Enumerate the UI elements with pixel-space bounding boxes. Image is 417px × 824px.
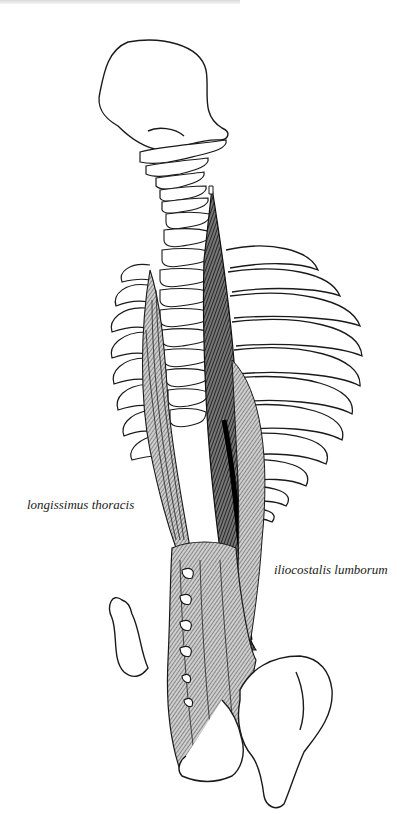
label-longissimus-thoracis: longissimus thoracis	[27, 497, 134, 513]
spinous-process-tip	[209, 186, 213, 194]
skull	[99, 40, 228, 150]
spine-muscle-illustration	[0, 0, 417, 824]
label-iliocostalis-lumborum: iliocostalis lumborum	[274, 562, 388, 578]
